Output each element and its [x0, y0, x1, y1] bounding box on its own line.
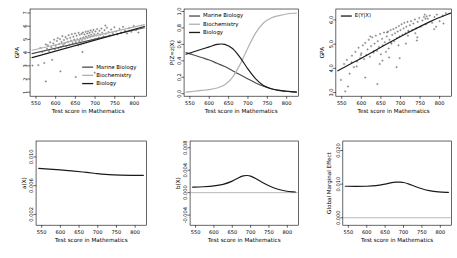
- svg-text:7: 7: [22, 11, 28, 14]
- svg-text:Test score in Mathematics: Test score in Mathematics: [360, 237, 433, 243]
- svg-text:6: 6: [22, 25, 28, 28]
- svg-text:600: 600: [362, 229, 372, 235]
- svg-text:4.0: 4.0: [327, 64, 333, 72]
- svg-text:800: 800: [130, 229, 140, 235]
- svg-text:Marine Biology: Marine Biology: [203, 13, 244, 20]
- svg-text:Marine Biology: Marine Biology: [96, 64, 137, 71]
- svg-text:0.010: 0.010: [28, 150, 34, 165]
- svg-text:3.0: 3.0: [327, 89, 333, 97]
- svg-text:GPA: GPA: [14, 47, 20, 58]
- svg-text:0.010: 0.010: [334, 177, 340, 192]
- svg-text:a(X): a(X): [21, 178, 27, 190]
- svg-text:600: 600: [205, 100, 215, 106]
- svg-text:650: 650: [376, 100, 386, 106]
- svg-text:Test score in Mathematics: Test score in Mathematics: [51, 108, 125, 114]
- svg-text:0.008: 0.008: [182, 141, 188, 156]
- svg-text:0.020: 0.020: [334, 143, 340, 158]
- svg-text:550: 550: [31, 100, 41, 106]
- svg-text:750: 750: [112, 229, 122, 235]
- svg-text:Biology: Biology: [203, 29, 224, 36]
- svg-text:Test score in Mathematics: Test score in Mathematics: [204, 108, 278, 114]
- svg-text:0.006: 0.006: [28, 179, 34, 194]
- svg-text:Test score in Mathematics: Test score in Mathematics: [356, 108, 429, 114]
- svg-text:0.004: 0.004: [182, 163, 188, 178]
- svg-text:700: 700: [93, 229, 103, 235]
- svg-text:650: 650: [224, 100, 234, 106]
- svg-text:800: 800: [282, 100, 292, 106]
- svg-text:550: 550: [37, 229, 47, 235]
- svg-text:Biology: Biology: [96, 80, 117, 87]
- svg-text:E(Y|X): E(Y|X): [354, 12, 370, 19]
- svg-text:1.0: 1.0: [176, 7, 182, 15]
- panel-global-marginal-effect: 550600650700750800Test score in Mathemat…: [305, 129, 457, 258]
- svg-text:800: 800: [435, 229, 445, 235]
- svg-text:0.000: 0.000: [182, 186, 188, 201]
- panel-2-svg: 550600650700750800Test score in Mathemat…: [152, 0, 304, 129]
- svg-text:650: 650: [228, 229, 238, 235]
- svg-text:550: 550: [185, 100, 195, 106]
- svg-text:800: 800: [434, 100, 444, 106]
- svg-text:700: 700: [90, 100, 100, 106]
- svg-text:650: 650: [70, 100, 80, 106]
- svg-text:-0.004: -0.004: [182, 207, 188, 223]
- svg-text:Test score in Mathematics: Test score in Mathematics: [207, 237, 281, 243]
- svg-text:600: 600: [209, 229, 219, 235]
- svg-text:750: 750: [417, 229, 427, 235]
- svg-text:Test score in Mathematics: Test score in Mathematics: [54, 237, 128, 243]
- svg-text:750: 750: [415, 100, 425, 106]
- svg-text:800: 800: [283, 229, 293, 235]
- panel-1-svg: 550600650700750800Test score in Mathemat…: [0, 0, 152, 129]
- panel-5-svg: 550600650700750800Test score in Mathemat…: [152, 129, 304, 258]
- svg-text:b(X): b(X): [175, 177, 181, 189]
- svg-text:Biochemistry: Biochemistry: [203, 21, 239, 28]
- svg-text:700: 700: [243, 100, 253, 106]
- svg-text:P(Z=z|X): P(Z=z|X): [169, 40, 176, 65]
- svg-text:Biochemistry: Biochemistry: [96, 72, 132, 79]
- panel-b-of-x: 550600650700750800Test score in Mathemat…: [152, 129, 304, 258]
- svg-text:650: 650: [74, 229, 84, 235]
- panel-4-svg: 550600650700750800Test score in Mathemat…: [0, 129, 152, 258]
- svg-text:5: 5: [22, 38, 28, 41]
- svg-text:800: 800: [130, 100, 140, 106]
- panel-component-regressions: 550600650700750800Test score in Mathemat…: [0, 0, 152, 129]
- svg-text:1: 1: [22, 91, 28, 94]
- svg-text:Global Marginal Effect: Global Marginal Effect: [326, 152, 333, 214]
- panel-posterior-probabilities: 550600650700750800Test score in Mathemat…: [152, 0, 304, 129]
- panel-a-of-x: 550600650700750800Test score in Mathemat…: [0, 129, 152, 258]
- svg-text:0.0: 0.0: [176, 90, 182, 98]
- panel-6-svg: 550600650700750800Test score in Mathemat…: [305, 129, 457, 258]
- svg-text:5.0: 5.0: [327, 40, 333, 48]
- svg-text:750: 750: [264, 229, 274, 235]
- svg-text:3: 3: [22, 64, 28, 67]
- svg-text:700: 700: [246, 229, 256, 235]
- svg-text:600: 600: [51, 100, 61, 106]
- svg-text:0.8: 0.8: [176, 24, 182, 32]
- panel-3-svg: 550600650700750800Test score in Mathemat…: [305, 0, 457, 129]
- svg-text:550: 550: [337, 100, 347, 106]
- svg-text:GPA: GPA: [319, 47, 325, 58]
- svg-text:0.002: 0.002: [28, 207, 34, 222]
- svg-text:650: 650: [380, 229, 390, 235]
- svg-text:600: 600: [55, 229, 65, 235]
- svg-text:0.000: 0.000: [334, 211, 340, 226]
- svg-text:700: 700: [398, 229, 408, 235]
- svg-text:0.4: 0.4: [176, 57, 182, 65]
- svg-text:550: 550: [191, 229, 201, 235]
- svg-text:0.2: 0.2: [176, 73, 182, 81]
- figure-panel-grid: 550600650700750800Test score in Mathemat…: [0, 0, 457, 258]
- svg-text:700: 700: [395, 100, 405, 106]
- svg-text:550: 550: [343, 229, 353, 235]
- svg-text:2: 2: [22, 77, 28, 80]
- svg-text:4: 4: [22, 51, 28, 54]
- svg-text:600: 600: [356, 100, 366, 106]
- panel-conditional-mean: 550600650700750800Test score in Mathemat…: [305, 0, 457, 129]
- svg-text:750: 750: [263, 100, 273, 106]
- svg-text:750: 750: [110, 100, 120, 106]
- svg-text:0.6: 0.6: [176, 40, 182, 48]
- svg-text:6.0: 6.0: [327, 16, 333, 24]
